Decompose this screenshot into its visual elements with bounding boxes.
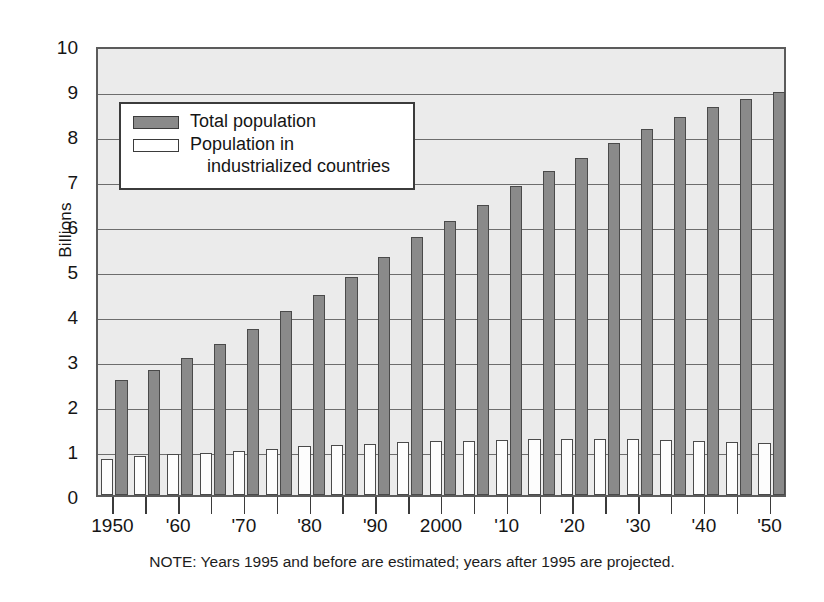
bar-total-population xyxy=(608,143,620,495)
bar-industrialized-population xyxy=(266,449,278,495)
x-axis-tick-labels: 1950'60'70'80'902000'10'20'30'40'50 xyxy=(96,516,786,544)
bar-industrialized-population xyxy=(594,439,606,495)
bar-industrialized-population xyxy=(298,446,310,495)
x-tick-label: 2000 xyxy=(420,516,462,535)
bar-group xyxy=(624,49,657,495)
x-tick xyxy=(178,497,179,514)
bar-group xyxy=(591,49,624,495)
x-tick-label: '80 xyxy=(297,516,322,535)
x-axis-ticks xyxy=(96,497,786,514)
y-tick-label: 5 xyxy=(67,263,78,282)
legend-swatch-total-population xyxy=(133,116,179,129)
x-tick xyxy=(211,497,212,514)
bar-industrialized-population xyxy=(397,442,409,495)
bar-total-population xyxy=(510,186,522,495)
y-tick-label: 4 xyxy=(67,308,78,327)
bar-industrialized-population xyxy=(496,440,508,495)
x-tick xyxy=(507,497,508,514)
bar-total-population xyxy=(411,237,423,495)
x-tick xyxy=(441,497,442,514)
bar-total-population xyxy=(641,129,653,495)
x-tick-label: '70 xyxy=(231,516,256,535)
bar-industrialized-population xyxy=(528,439,540,495)
bar-industrialized-population xyxy=(726,442,738,495)
x-tick xyxy=(737,497,738,514)
bar-total-population xyxy=(444,221,456,495)
chart-page: Billions 012345678910 Total population P… xyxy=(0,0,824,602)
legend-label-line-1: Population in xyxy=(190,134,294,154)
x-tick-label: '30 xyxy=(626,516,651,535)
bar-total-population xyxy=(477,205,489,495)
x-tick-label: '90 xyxy=(363,516,388,535)
x-tick-label: '20 xyxy=(560,516,585,535)
x-tick xyxy=(408,497,409,514)
y-tick-label: 2 xyxy=(67,398,78,417)
x-tick-label: '40 xyxy=(691,516,716,535)
y-tick-label: 1 xyxy=(67,443,78,462)
x-tick xyxy=(770,497,771,514)
bar-industrialized-population xyxy=(364,444,376,495)
bar-industrialized-population xyxy=(134,456,146,495)
bar-total-population xyxy=(543,171,555,495)
bar-group xyxy=(657,49,690,495)
bar-total-population xyxy=(773,92,785,495)
bar-total-population xyxy=(181,358,193,495)
bar-group xyxy=(722,49,755,495)
y-tick-label: 6 xyxy=(67,218,78,237)
x-tick xyxy=(638,497,639,514)
bar-total-population xyxy=(345,277,357,495)
bar-group xyxy=(558,49,591,495)
bar-industrialized-population xyxy=(430,441,442,495)
bar-group xyxy=(755,49,788,495)
y-tick-label: 7 xyxy=(67,173,78,192)
y-axis-tick-labels: 012345678910 xyxy=(26,47,88,497)
x-tick xyxy=(244,497,245,514)
x-tick-label: '10 xyxy=(494,516,519,535)
bar-total-population xyxy=(740,99,752,495)
y-tick-label: 3 xyxy=(67,353,78,372)
legend-item-total-population: Total population xyxy=(133,111,403,133)
y-tick-label: 0 xyxy=(67,488,78,507)
bar-total-population xyxy=(313,295,325,495)
bar-group xyxy=(459,49,492,495)
bar-total-population xyxy=(247,329,259,496)
bar-industrialized-population xyxy=(200,453,212,495)
bar-total-population xyxy=(707,107,719,495)
x-tick xyxy=(112,497,113,514)
x-tick xyxy=(375,497,376,514)
bar-total-population xyxy=(148,370,160,495)
x-tick xyxy=(145,497,146,514)
bar-total-population xyxy=(115,380,127,495)
x-tick xyxy=(605,497,606,514)
chart-legend: Total population Population inindustrial… xyxy=(119,102,415,190)
bar-total-population xyxy=(674,117,686,495)
x-tick-label: '60 xyxy=(166,516,191,535)
y-tick-label: 8 xyxy=(67,128,78,147)
bar-industrialized-population xyxy=(693,441,705,495)
bar-industrialized-population xyxy=(463,441,475,495)
chart-note: NOTE: Years 1995 and before are estimate… xyxy=(0,553,824,571)
bar-industrialized-population xyxy=(233,451,245,495)
bar-industrialized-population xyxy=(101,459,113,495)
x-tick xyxy=(572,497,573,514)
x-tick xyxy=(540,497,541,514)
bar-total-population xyxy=(214,344,226,495)
legend-label-total-population: Total population xyxy=(190,111,316,133)
legend-item-industrialized-countries: Population inindustrialized countries xyxy=(133,134,403,178)
legend-swatch-industrialized-countries xyxy=(133,139,179,152)
bar-total-population xyxy=(575,158,587,496)
x-tick xyxy=(671,497,672,514)
bar-industrialized-population xyxy=(758,443,770,495)
x-tick-label: 1950 xyxy=(91,516,133,535)
bar-total-population xyxy=(378,257,390,495)
bar-group xyxy=(427,49,460,495)
x-tick-label: '50 xyxy=(757,516,782,535)
legend-label-line-2: industrialized countries xyxy=(190,156,390,178)
y-tick-label: 10 xyxy=(57,38,78,57)
y-tick-label: 9 xyxy=(67,83,78,102)
x-tick xyxy=(704,497,705,514)
bar-group xyxy=(525,49,558,495)
bar-industrialized-population xyxy=(561,439,573,495)
legend-label-industrialized-countries: Population inindustrialized countries xyxy=(190,134,390,178)
bar-industrialized-population xyxy=(167,454,179,495)
